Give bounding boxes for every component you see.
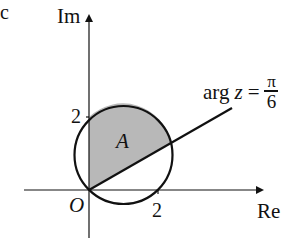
re-axis-label: Re — [257, 201, 280, 222]
im-axis-label: Im — [57, 6, 80, 27]
ray-label-eq: = — [248, 82, 260, 103]
im-tick-label: 2 — [71, 106, 81, 126]
re-tick-label: 2 — [152, 200, 162, 220]
ray-label-var: z — [234, 82, 242, 103]
ray-label: arg z = π 6 — [203, 72, 278, 112]
fraction-denominator: 6 — [267, 92, 277, 111]
argand-diagram — [0, 0, 289, 238]
ray-label-fraction: π 6 — [264, 73, 278, 110]
origin-label: O — [69, 195, 84, 216]
corner-label: c — [0, 2, 9, 22]
fraction-numerator: π — [267, 73, 276, 90]
ray-label-arg: arg — [203, 82, 229, 103]
region-a-label: A — [116, 131, 129, 152]
shaded-region-a — [89, 103, 171, 190]
